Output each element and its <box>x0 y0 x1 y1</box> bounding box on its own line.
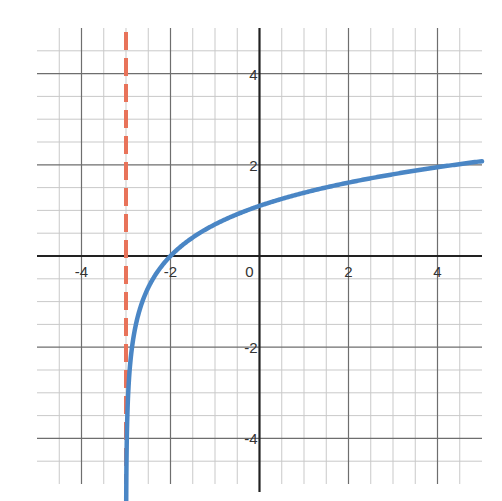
x-tick-label: 4 <box>433 263 441 280</box>
x-tick-label: -2 <box>164 263 177 280</box>
plot-area: -4-2024-4-224 <box>0 0 502 501</box>
x-tick-label: 0 <box>245 263 253 280</box>
y-tick-label: 4 <box>249 66 257 83</box>
y-tick-label: -4 <box>244 430 257 447</box>
chart: -4-2024-4-224 <box>0 0 502 501</box>
y-tick-label: 2 <box>249 157 257 174</box>
x-tick-label: -4 <box>75 263 88 280</box>
x-tick-label: 2 <box>344 263 352 280</box>
y-tick-label: -2 <box>244 339 257 356</box>
